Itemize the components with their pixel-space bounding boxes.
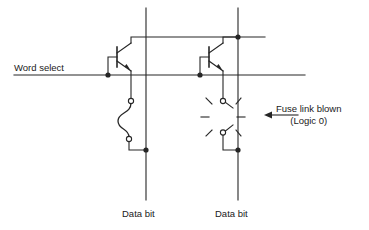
left-fuse-bottom-wire xyxy=(129,142,146,150)
junction-dot-right-collector xyxy=(235,34,240,39)
fuse-blown-line1: Fuse link blown xyxy=(276,103,341,114)
right-transistor-collector-lead xyxy=(209,43,223,53)
fuse-terminal-top-left xyxy=(128,98,133,103)
blown-fuse-stub-bottom xyxy=(226,125,234,131)
blown-fuse-terminal-top xyxy=(220,98,225,103)
junction-dot-left-bottom xyxy=(143,147,148,152)
right-transistor-collector-wire xyxy=(223,37,265,43)
fuse-blown-annotation: Fuse link blown(Logic 0) xyxy=(276,103,341,127)
junction-dot-right-base xyxy=(197,72,202,77)
left-transistor-collector-lead xyxy=(117,43,131,53)
junction-dot-left-base xyxy=(105,72,110,77)
right-fuse-bottom-wire xyxy=(223,136,238,151)
blown-fuse-terminal-bottom xyxy=(220,130,225,135)
right-transistor-base-lead xyxy=(200,57,209,75)
fuse-link-intact xyxy=(118,103,131,137)
fuse-terminal-bottom-left xyxy=(126,136,131,141)
left-transistor-base-lead xyxy=(108,57,117,75)
blown-fuse-stub-top xyxy=(226,103,234,109)
junction-dot-right-bottom xyxy=(235,147,240,152)
fuse-annotation-arrowhead xyxy=(264,112,272,119)
circuit-diagram-canvas: Word select Data bit Data bit Fuse link … xyxy=(0,0,369,230)
fuse-blown-line2: (Logic 0) xyxy=(276,115,341,127)
data-bit-label-left: Data bit xyxy=(122,208,155,220)
left-transistor-collector-wire xyxy=(131,37,238,43)
word-select-label: Word select xyxy=(14,62,64,74)
data-bit-label-right: Data bit xyxy=(215,208,248,220)
